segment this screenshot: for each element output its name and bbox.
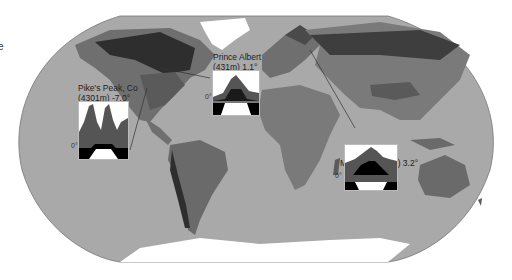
moscow-zero-label: 0° (335, 172, 342, 179)
world-map (0, 0, 512, 280)
pikes-peak-climate-inset (78, 101, 129, 160)
new-zealand (478, 198, 482, 206)
prince-albert-zero-label: 0° (205, 93, 212, 100)
moscow-climate-inset (344, 144, 398, 191)
pikes-peak-label: Pike's Peak, Co (4301m) -7.0° (78, 83, 138, 103)
prince-albert-label: Prince Albert (431m) 1.1° (213, 52, 261, 72)
prince-albert-climate-inset (212, 70, 260, 116)
pikes-peak-zero-label: 0° (71, 142, 78, 149)
